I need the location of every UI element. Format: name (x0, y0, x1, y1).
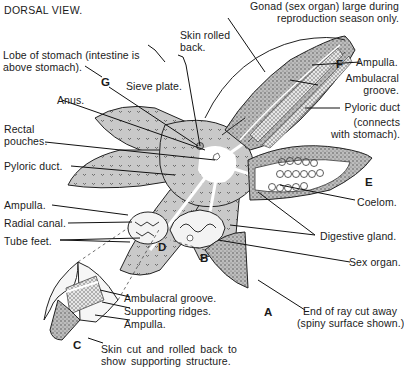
letter-c: C (73, 339, 81, 351)
label-c-ambulacral-groove: Ambulacral groove. (124, 292, 216, 304)
label-anus: Anus. (57, 94, 84, 106)
label-pyloric-duct-right: Pyloric duct (connects with stomach). (320, 101, 400, 140)
label-digestive-gland: Digestive gland. (320, 230, 396, 242)
label-radial-canal: Radial canal. (4, 217, 66, 229)
label-sex-organ: Sex organ. (349, 256, 401, 268)
label-ambulacral-groove: Ambulacral groove. (320, 72, 399, 96)
label-end-of-ray: End of ray cut away (spiny surface shown… (302, 305, 404, 329)
letter-e: E (365, 176, 373, 188)
letter-g: G (101, 76, 110, 88)
detail-c (44, 262, 118, 340)
letter-d: D (158, 241, 166, 253)
label-lobe-of-stomach: Lobe of stomach (intestine is above stom… (3, 49, 140, 73)
starfish-diagram: DORSAL VIEW. Gonad (sex organ) large dur… (0, 0, 404, 372)
label-pyloric-duct-left: Pyloric duct. (4, 160, 63, 172)
letter-a: A (264, 306, 272, 318)
label-c-ampulla: Ampulla. (124, 318, 166, 330)
ray-e-section (248, 146, 372, 200)
label-gonad: Gonad (sex organ) large during reproduct… (215, 0, 399, 24)
letter-f: F (336, 58, 343, 70)
label-skin-rolled: Skin rolled back. (180, 29, 230, 53)
label-c-supporting-ridges: Supporting ridges. (124, 305, 211, 317)
label-skin-cut: Skin cut and rolled back to show support… (101, 343, 237, 367)
label-coelom: Coelom. (357, 196, 397, 208)
label-rectal-pouches: Rectal pouches. (4, 123, 47, 147)
letter-b: B (200, 252, 208, 264)
label-ampulla-left: Ampulla. (4, 199, 46, 211)
label-ampulla-right: Ampulla. (356, 56, 398, 68)
view-title: DORSAL VIEW. (4, 4, 82, 16)
section-d (128, 212, 168, 244)
label-sieve-plate: Sieve plate. (126, 80, 182, 92)
label-tube-feet: Tube feet. (4, 235, 52, 247)
